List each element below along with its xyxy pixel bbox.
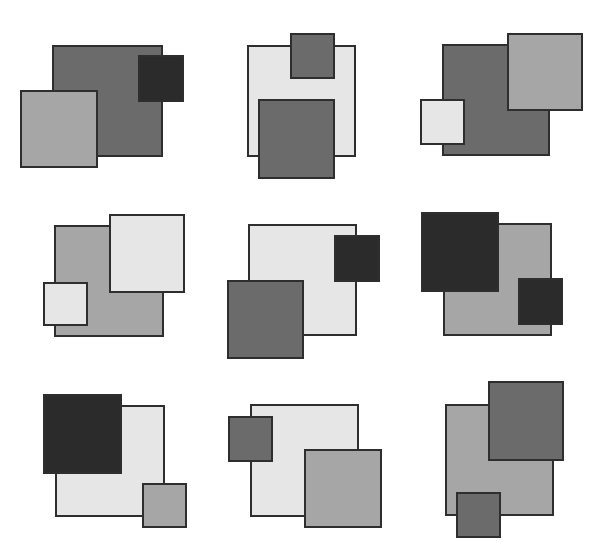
square-dark	[43, 394, 122, 474]
square-darkgray	[258, 99, 335, 179]
square-lightgray	[142, 483, 187, 528]
square-verylight	[109, 214, 185, 293]
square-lightgray	[507, 33, 583, 111]
squares-diagram	[0, 0, 605, 559]
square-darkgray	[456, 492, 501, 538]
square-verylight	[420, 99, 465, 145]
square-dark	[138, 55, 184, 102]
square-lightgray	[20, 90, 98, 168]
square-dark	[518, 278, 563, 325]
square-darkgray	[488, 381, 564, 461]
square-darkgray	[227, 280, 304, 359]
square-darkgray	[290, 33, 335, 79]
square-verylight	[43, 282, 88, 326]
square-lightgray	[304, 449, 382, 528]
square-dark	[421, 212, 499, 292]
square-darkgray	[228, 416, 273, 462]
square-dark	[334, 235, 380, 282]
